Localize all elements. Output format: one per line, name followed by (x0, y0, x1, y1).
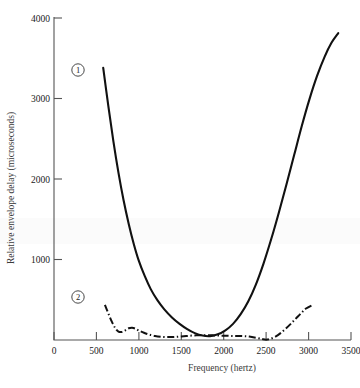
y-axis-title: Relative envelope delay (microseconds) (6, 112, 17, 264)
x-tick-label: 2000 (214, 346, 233, 356)
x-tick-label: 2500 (257, 346, 276, 356)
y-tick-label: 3000 (31, 94, 50, 104)
x-tick-label: 3000 (299, 346, 318, 356)
x-tick-label: 1500 (172, 346, 191, 356)
x-tick-label: 1000 (129, 346, 148, 356)
x-axis-title: Frequency (hertz) (188, 363, 256, 374)
x-tick-label: 3500 (342, 346, 360, 356)
y-tick-label: 4000 (31, 14, 50, 24)
x-tick-label: 0 (52, 346, 57, 356)
annotation-label-2: 2 (76, 292, 80, 302)
y-tick-label: 1000 (31, 255, 50, 265)
x-tick-label: 500 (89, 346, 104, 356)
y-tick-label: 2000 (31, 175, 50, 185)
annotation-label-1: 1 (76, 65, 80, 75)
envelope-delay-chart: 4000 3000 2000 1000 0 500 1000 1500 2000… (0, 0, 360, 388)
